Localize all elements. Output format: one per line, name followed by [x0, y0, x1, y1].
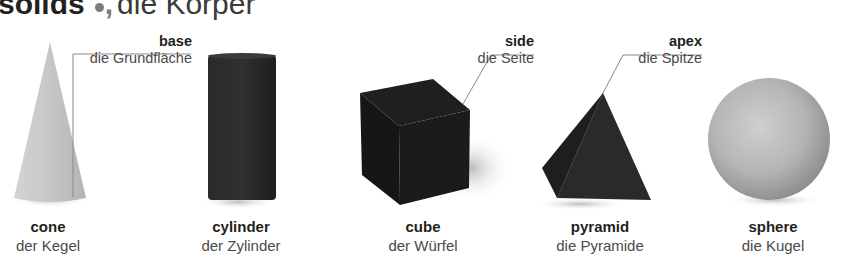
cube-shape — [360, 79, 512, 205]
callout-side-german: die Seite — [478, 50, 534, 67]
caption-cube-english: cube — [370, 217, 476, 236]
caption-pyramid: pyramid die Pyramide — [540, 217, 660, 255]
cone-shape — [8, 42, 92, 207]
caption-pyramid-english: pyramid — [540, 217, 660, 236]
cylinder-shape — [198, 53, 278, 209]
callout-apex-english: apex — [638, 33, 702, 50]
caption-cone-english: cone — [0, 217, 96, 236]
caption-cylinder: cylinder der Zylinder — [188, 217, 294, 255]
caption-sphere-english: sphere — [720, 217, 826, 236]
caption-sphere-german: die Kugel — [720, 236, 826, 255]
caption-cone-german: der Kegel — [0, 236, 96, 255]
callout-apex-german: die Spitze — [638, 50, 702, 67]
callout-base-german: die Grundfläche — [90, 50, 192, 67]
caption-cube: cube der Würfel — [370, 217, 476, 255]
caption-sphere: sphere die Kugel — [720, 217, 826, 255]
caption-cone: cone der Kegel — [0, 217, 96, 255]
pyramid-shape — [532, 93, 651, 210]
callout-apex: apex die Spitze — [638, 33, 702, 67]
callout-side-english: side — [478, 33, 534, 50]
callout-base: base die Grundfläche — [90, 33, 192, 67]
caption-cylinder-english: cylinder — [188, 217, 294, 236]
caption-cylinder-german: der Zylinder — [188, 236, 294, 255]
caption-pyramid-german: die Pyramide — [540, 236, 660, 255]
callout-base-english: base — [90, 33, 192, 50]
base-leader-line — [73, 54, 191, 197]
callout-side: side die Seite — [478, 33, 534, 67]
sphere-shape — [708, 78, 830, 207]
caption-cube-german: der Würfel — [370, 236, 476, 255]
